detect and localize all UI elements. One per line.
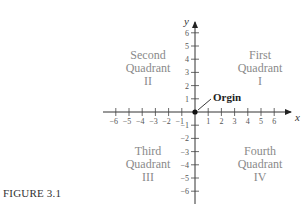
quadrant-numeral: I — [225, 75, 295, 88]
x-axis-label: x — [294, 111, 300, 123]
origin-pointer — [198, 99, 211, 110]
x-tick-label: 5 — [259, 117, 263, 126]
y-tick-label: 2 — [185, 82, 189, 91]
y-tick-label: 3 — [185, 68, 189, 77]
x-tick-label: −3 — [149, 117, 158, 126]
y-tick-label: 4 — [185, 55, 189, 64]
x-tick-label: 4 — [246, 117, 250, 126]
coordinate-plane: −6−5−4−3−2−1123456 654321−1−2−3−4−5−6 x … — [0, 0, 307, 218]
x-tick-label: 2 — [219, 117, 223, 126]
y-tick-label: 5 — [185, 42, 189, 51]
quadrant-first-label: First Quadrant I — [225, 49, 295, 88]
x-tick-label: 3 — [233, 117, 237, 126]
y-tick-label: 6 — [185, 29, 189, 38]
quadrant-second-label: Second Quadrant II — [113, 49, 183, 88]
origin-label: Orgin — [213, 91, 241, 103]
y-tick-label: −2 — [180, 134, 189, 143]
x-tick-label: −5 — [123, 117, 132, 126]
x-tick-label: −2 — [162, 117, 171, 126]
origin-point — [192, 109, 197, 114]
x-tick-label: −6 — [110, 117, 119, 126]
x-tick-label: 6 — [272, 117, 276, 126]
x-tick-label: 1 — [206, 117, 210, 126]
x-tick-label: −4 — [136, 117, 145, 126]
quadrant-numeral: IV — [225, 171, 295, 184]
y-tick-label: −1 — [180, 121, 189, 130]
y-axis-label: y — [183, 15, 189, 27]
figure-caption: FIGURE 3.1 — [3, 187, 61, 199]
y-tick-label: 1 — [185, 95, 189, 104]
quadrant-numeral: II — [113, 75, 183, 88]
y-tick-label: −6 — [180, 187, 189, 196]
quadrant-fourth-label: Fourth Quadrant IV — [225, 145, 295, 184]
quadrant-third-label: Third Quadrant III — [113, 145, 183, 184]
quadrant-numeral: III — [113, 171, 183, 184]
